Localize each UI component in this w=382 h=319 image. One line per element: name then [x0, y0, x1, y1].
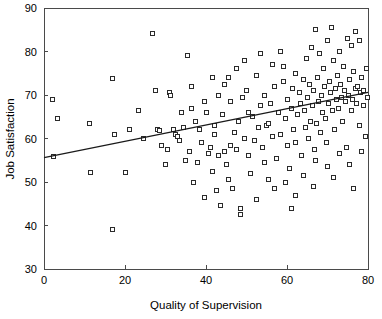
- data-point-marker: [279, 50, 283, 54]
- data-point-marker: [343, 89, 347, 93]
- data-point-marker: [222, 150, 226, 154]
- data-point-marker: [266, 121, 270, 125]
- data-point-marker: [293, 71, 297, 75]
- plot-frame: [44, 8, 368, 269]
- data-point-marker: [352, 69, 356, 73]
- data-point-marker: [55, 117, 59, 121]
- data-point-marker: [321, 110, 325, 114]
- data-point-marker: [285, 143, 289, 147]
- data-point-marker: [269, 102, 273, 106]
- data-point-marker: [206, 152, 210, 156]
- data-point-marker: [255, 73, 259, 77]
- x-tick-label: 20: [119, 274, 131, 286]
- data-point-marker: [259, 104, 263, 108]
- data-point-marker: [257, 126, 261, 130]
- chart-canvas: 30405060708090 020406080 Quality of Supe…: [0, 0, 382, 319]
- data-point-marker: [188, 150, 192, 154]
- data-point-marker: [218, 204, 222, 208]
- data-point-marker: [243, 137, 247, 141]
- data-point-marker: [286, 97, 290, 101]
- data-point-marker: [136, 108, 140, 112]
- data-point-marker: [186, 54, 190, 58]
- data-point-marker: [180, 110, 184, 114]
- x-tick-label: 0: [41, 274, 47, 286]
- data-point-marker: [249, 171, 253, 175]
- y-tick-label: 80: [25, 46, 37, 58]
- data-point-marker: [263, 160, 267, 164]
- data-point-marker: [364, 67, 368, 71]
- data-point-marker: [87, 121, 91, 125]
- data-point-marker: [362, 89, 366, 93]
- data-point-marker: [228, 143, 232, 147]
- data-point-marker: [326, 102, 330, 106]
- data-point-marker: [303, 126, 307, 130]
- data-point-marker: [113, 132, 117, 136]
- data-point-marker: [166, 147, 170, 151]
- data-point-marker: [168, 93, 172, 97]
- data-point-marker: [306, 137, 310, 141]
- data-point-marker: [360, 76, 364, 80]
- data-point-marker: [50, 97, 54, 101]
- data-point-marker: [304, 56, 308, 60]
- data-point-marker: [354, 30, 358, 34]
- data-point-marker: [317, 52, 321, 56]
- data-point-marker: [345, 145, 349, 149]
- data-point-marker: [309, 119, 313, 123]
- y-axis-title: Job Satisfaction: [4, 98, 16, 179]
- data-point-marker: [190, 84, 194, 88]
- data-point-marker: [232, 130, 236, 134]
- data-point-marker: [307, 82, 311, 86]
- data-point-marker: [228, 100, 232, 104]
- data-point-marker: [273, 187, 277, 191]
- data-point-marker: [110, 228, 114, 232]
- data-point-marker: [313, 158, 317, 162]
- data-point-marker: [111, 77, 115, 81]
- data-point-marker: [301, 78, 305, 82]
- x-tick-label: 60: [281, 274, 293, 286]
- data-point-marker: [352, 187, 356, 191]
- data-point-marker: [357, 123, 361, 127]
- y-tick-label: 30: [25, 263, 37, 275]
- data-point-marker: [157, 129, 161, 133]
- axis-ticks: [44, 8, 368, 269]
- data-point-marker: [311, 184, 315, 188]
- data-point-marker: [194, 119, 198, 123]
- data-point-marker: [318, 130, 322, 134]
- data-point-marker: [313, 147, 317, 151]
- data-point-marker: [89, 170, 93, 174]
- data-point-marker: [339, 82, 343, 86]
- data-point-marker: [216, 93, 220, 97]
- y-tick-label: 90: [25, 2, 37, 14]
- data-point-marker: [293, 193, 297, 197]
- data-point-marker: [267, 178, 271, 182]
- data-point-marker: [294, 141, 298, 145]
- data-point-marker: [151, 31, 155, 35]
- data-point-marker: [332, 58, 336, 62]
- data-point-marker: [200, 141, 204, 145]
- data-point-marker: [208, 145, 212, 149]
- data-point-marker: [315, 76, 319, 80]
- data-point-marker: [226, 178, 230, 182]
- x-tick-label: 80: [362, 274, 374, 286]
- data-point-marker: [287, 167, 291, 171]
- data-point-marker: [236, 119, 240, 123]
- data-point-marker: [289, 206, 293, 210]
- data-point-marker: [358, 39, 362, 43]
- data-point-marker: [348, 78, 352, 82]
- data-point-marker: [360, 150, 364, 154]
- data-point-marker: [321, 67, 325, 71]
- data-point-marker: [159, 143, 163, 147]
- data-point-marker: [297, 91, 301, 95]
- data-point-marker: [344, 100, 348, 104]
- data-point-marker: [338, 50, 342, 54]
- data-point-marker: [295, 113, 299, 117]
- data-point-marker: [336, 73, 340, 77]
- data-point-marker: [263, 93, 267, 97]
- data-point-marker: [301, 174, 305, 178]
- data-point-marker: [176, 134, 180, 138]
- data-point-marker: [210, 169, 214, 173]
- data-point-marker: [273, 84, 277, 88]
- y-tick-label: 70: [25, 89, 37, 101]
- data-point-marker: [196, 160, 200, 164]
- data-point-marker: [332, 176, 336, 180]
